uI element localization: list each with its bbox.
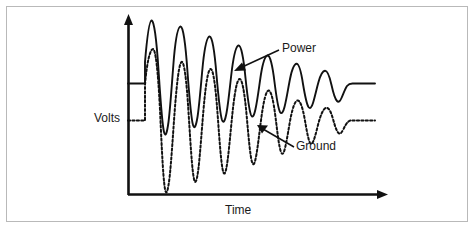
waveform-plot [0, 0, 476, 230]
power-waveform [128, 20, 375, 134]
y-axis-arrow-icon [124, 14, 133, 25]
y-axis-label: Volts [94, 111, 120, 125]
ground-waveform [128, 49, 375, 192]
power-callout-line [240, 50, 279, 68]
figure-root: Volts Time Power Ground [0, 0, 476, 230]
ground-annotation-label: Ground [296, 139, 336, 153]
power-annotation-label: Power [282, 41, 316, 55]
x-axis-arrow-icon [377, 190, 388, 199]
x-axis-label: Time [225, 203, 251, 217]
